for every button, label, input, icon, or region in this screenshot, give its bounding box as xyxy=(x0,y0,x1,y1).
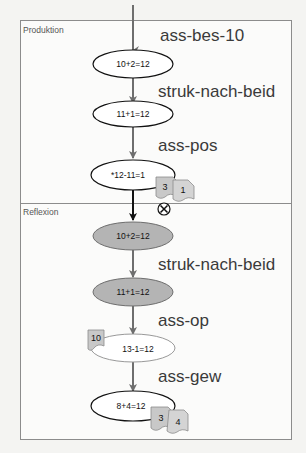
node-4: 10+2=12 xyxy=(93,222,173,250)
arrow-struk-nach-beid-1 xyxy=(129,78,137,104)
svg-text:11+1=12: 11+1=12 xyxy=(117,287,150,297)
node-5: 11+1=12 xyxy=(93,278,173,306)
svg-text:3: 3 xyxy=(162,182,167,192)
node-2: 11+1=12 xyxy=(93,101,173,127)
svg-text:10+2=12: 10+2=12 xyxy=(116,231,150,241)
node-1: 10+2=12 xyxy=(93,50,173,78)
arrow-ass-pos xyxy=(129,127,137,159)
rule-label-struk-nach-beid-2: struk-nach-beid xyxy=(158,255,275,275)
badge-4-node-7: 4 xyxy=(167,410,188,433)
svg-text:10+2=12: 10+2=12 xyxy=(116,59,150,69)
arrow-boundary xyxy=(129,190,137,221)
arrow-ass-gew xyxy=(129,360,137,392)
circled-x-icon xyxy=(158,203,170,215)
rule-label-ass-bes-10: ass-bes-10 xyxy=(160,26,244,46)
svg-text:4: 4 xyxy=(175,417,180,427)
svg-text:8+4=12: 8+4=12 xyxy=(117,401,146,411)
svg-text:11+1=12: 11+1=12 xyxy=(117,109,150,119)
arrow-ass-op xyxy=(129,305,137,335)
rule-label-ass-gew: ass-gew xyxy=(158,367,221,387)
svg-text:*12-11=1: *12-11=1 xyxy=(111,170,145,180)
svg-text:10: 10 xyxy=(91,333,101,343)
svg-text:1: 1 xyxy=(180,185,185,195)
svg-text:13-1=12: 13-1=12 xyxy=(122,344,154,354)
arrow-struk-nach-beid-2 xyxy=(129,250,137,278)
rule-label-struk-nach-beid-1: struk-nach-beid xyxy=(158,82,275,102)
svg-text:3: 3 xyxy=(158,413,163,423)
rule-label-ass-pos: ass-pos xyxy=(158,136,218,156)
rule-label-ass-op: ass-op xyxy=(158,311,209,331)
flow-diagram: 10+2=12 11+1=12 *12-11=1 10+2=12 11+1=12… xyxy=(0,0,306,453)
badge-1-node-3: 1 xyxy=(173,180,194,201)
